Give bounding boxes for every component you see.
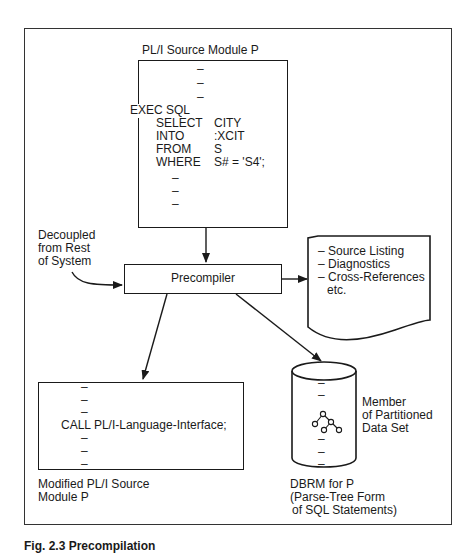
arrow-decoupled-to-precompiler <box>72 272 122 285</box>
listing-document-shape <box>308 236 430 340</box>
arrow-precompiler-to-modified-module <box>143 294 167 379</box>
cylinder-top <box>292 362 356 380</box>
parse-tree-icon <box>312 411 341 432</box>
figure-caption: Fig. 2.3 Precompilation <box>24 539 155 553</box>
cylinder-body <box>292 371 356 467</box>
